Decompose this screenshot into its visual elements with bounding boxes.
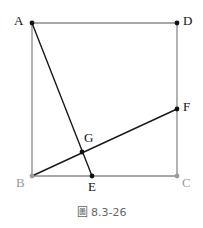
vertex-points-group bbox=[30, 21, 180, 179]
figure-caption: 圖 8.3-26 bbox=[0, 206, 203, 219]
point-c bbox=[175, 174, 180, 179]
geometry-figure: A D F G B E C 圖 8.3-26 bbox=[0, 0, 203, 228]
vertex-label-f: F bbox=[183, 100, 190, 113]
point-g bbox=[80, 150, 85, 155]
square-abcd-group bbox=[32, 23, 177, 176]
vertex-label-a: A bbox=[14, 14, 23, 27]
point-a bbox=[30, 21, 35, 26]
point-f bbox=[175, 107, 180, 112]
segment-b-to-f bbox=[32, 109, 177, 176]
vertex-label-e: E bbox=[88, 180, 96, 193]
vertex-label-g: G bbox=[84, 131, 93, 144]
vertex-label-b: B bbox=[16, 176, 25, 189]
vertex-label-d: D bbox=[183, 14, 192, 27]
point-b bbox=[30, 174, 35, 179]
geometry-diagram-canvas bbox=[0, 0, 203, 228]
point-e bbox=[90, 174, 95, 179]
construction-segments-group bbox=[32, 23, 177, 176]
square-abcd-outline bbox=[32, 23, 177, 176]
vertex-label-c: C bbox=[182, 176, 191, 189]
point-d bbox=[175, 21, 180, 26]
